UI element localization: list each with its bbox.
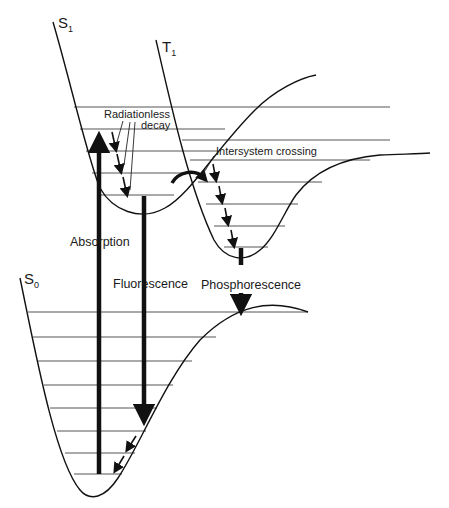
s0-potential-curve — [20, 278, 308, 497]
intersystem-crossing-leader — [203, 156, 214, 174]
s1-potential-curve — [53, 22, 316, 214]
s1-state-label: S1 — [58, 14, 73, 34]
jablonski-diagram: S1 T1 S0 Absorption Fluorescence Phospho… — [0, 0, 449, 508]
s0-state-label: S0 — [24, 270, 39, 290]
radiationless-decay-label-line2: decay — [141, 119, 171, 131]
t1-radiationless-decay-arrows — [213, 164, 234, 246]
intersystem-crossing-arrow — [172, 172, 204, 183]
s1-radiationless-decay-arrows — [112, 132, 127, 195]
intersystem-crossing-label: Intersystem crossing — [216, 145, 317, 157]
absorption-label: Absorption — [70, 235, 130, 249]
t1-state-label: T1 — [162, 38, 176, 58]
fluorescence-label: Fluorescence — [113, 277, 188, 291]
radiationless-decay-leader-lines — [117, 121, 135, 190]
s0-vibrational-levels — [28, 312, 308, 474]
phosphorescence-label: Phosphorescence — [201, 278, 301, 292]
